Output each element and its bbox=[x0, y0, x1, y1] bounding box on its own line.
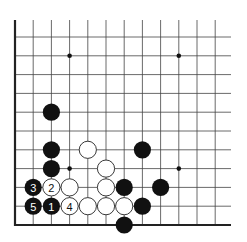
black-stone bbox=[152, 179, 169, 196]
white-stone-disc bbox=[79, 198, 96, 215]
star-point bbox=[67, 54, 72, 59]
white-stone bbox=[97, 198, 114, 215]
black-stone-disc bbox=[116, 216, 133, 233]
white-stone: 4 bbox=[61, 198, 78, 215]
star-point bbox=[177, 54, 182, 59]
white-stone-disc bbox=[97, 179, 114, 196]
black-stone bbox=[43, 104, 60, 121]
black-stone: 3 bbox=[25, 179, 42, 196]
white-stone bbox=[79, 198, 96, 215]
black-stone bbox=[134, 141, 151, 158]
black-stone-disc bbox=[116, 179, 133, 196]
white-stone-disc bbox=[61, 179, 78, 196]
white-stone bbox=[116, 198, 133, 215]
black-stone-disc bbox=[43, 104, 60, 121]
white-stone bbox=[79, 141, 96, 158]
move-number-label: 1 bbox=[48, 201, 54, 213]
black-stone: 5 bbox=[25, 198, 42, 215]
black-stone bbox=[134, 198, 151, 215]
move-number-label: 2 bbox=[48, 182, 54, 194]
black-stone: 1 bbox=[43, 198, 60, 215]
white-stone bbox=[61, 179, 78, 196]
white-stone: 2 bbox=[43, 179, 60, 196]
white-stone-disc bbox=[97, 198, 114, 215]
star-point bbox=[67, 166, 72, 171]
move-number-label: 3 bbox=[30, 182, 36, 194]
black-stone bbox=[116, 216, 133, 233]
black-stone-disc bbox=[152, 179, 169, 196]
black-stone bbox=[116, 179, 133, 196]
black-stone bbox=[43, 141, 60, 158]
black-stone bbox=[43, 160, 60, 177]
white-stone-disc bbox=[116, 198, 133, 215]
white-stone bbox=[97, 160, 114, 177]
white-stone-disc bbox=[79, 141, 96, 158]
go-board-diagram: 32514 bbox=[0, 0, 247, 242]
black-stone-disc bbox=[134, 141, 151, 158]
move-number-label: 4 bbox=[67, 201, 73, 213]
black-stone-disc bbox=[43, 141, 60, 158]
black-stone-disc bbox=[134, 198, 151, 215]
star-point bbox=[177, 166, 182, 171]
white-stone bbox=[97, 179, 114, 196]
move-number-label: 5 bbox=[30, 201, 36, 213]
black-stone-disc bbox=[43, 160, 60, 177]
white-stone-disc bbox=[97, 160, 114, 177]
